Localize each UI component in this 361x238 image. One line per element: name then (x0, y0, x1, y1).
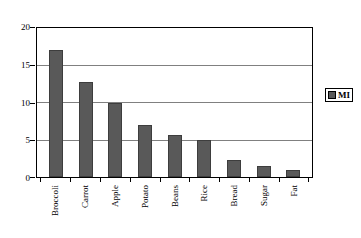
y-tick-label-20: 20 (21, 23, 30, 32)
y-axis: 20 15 10 5 0 (0, 27, 30, 178)
x-label-cell-potato: Potato (130, 183, 160, 238)
bar-carrot (79, 82, 93, 177)
x-label-cell-carrot: Carrot (70, 183, 100, 238)
y-tick-mark-10 (30, 103, 35, 104)
y-tick-label-10: 10 (21, 98, 30, 107)
x-label-cell-sugar: Sugar (249, 183, 279, 238)
y-tick-mark-0 (30, 177, 35, 178)
bar-potato (138, 125, 152, 177)
x-axis-labels: Broccoli Carrot Apple Potato Beans Rice … (36, 183, 313, 238)
x-label-beans: Beans (170, 185, 179, 207)
bar-slot-carrot (71, 28, 101, 177)
bar-slot-apple (100, 28, 130, 177)
bar-slot-potato (130, 28, 160, 177)
x-label-cell-beans: Beans (160, 183, 190, 238)
bar-slot-fat (278, 28, 308, 177)
y-tick-label-0: 0 (26, 174, 31, 183)
x-label-fat: Fat (290, 185, 299, 197)
bar-bread (227, 160, 241, 177)
legend-swatch-icon (328, 91, 336, 99)
x-label-cell-fat: Fat (279, 183, 309, 238)
bar-slot-rice (189, 28, 219, 177)
bar-beans (168, 135, 182, 177)
x-label-cell-bread: Bread (219, 183, 249, 238)
x-label-apple: Apple (110, 185, 119, 207)
x-label-bread: Bread (230, 185, 239, 207)
bar-series-MI (37, 28, 312, 177)
x-label-broccoli: Broccoli (50, 185, 59, 216)
y-tick-mark-20 (30, 27, 35, 28)
bar-chart: 20 15 10 5 0 (0, 0, 361, 238)
x-label-cell-broccoli: Broccoli (40, 183, 70, 238)
legend-label-MI: MI (338, 91, 350, 100)
plot-area (36, 27, 313, 178)
x-label-sugar: Sugar (260, 185, 269, 206)
x-label-cell-rice: Rice (189, 183, 219, 238)
bar-slot-sugar (249, 28, 279, 177)
x-label-cell-apple: Apple (100, 183, 130, 238)
y-tick-label-15: 15 (21, 60, 30, 69)
chart-legend[interactable]: MI (325, 88, 353, 102)
bar-slot-bread (219, 28, 249, 177)
x-label-potato: Potato (140, 185, 149, 208)
bar-slot-broccoli (41, 28, 71, 177)
bar-broccoli (49, 50, 63, 177)
bar-fat (286, 170, 300, 177)
bar-rice (197, 140, 211, 177)
bar-apple (108, 103, 122, 177)
bar-sugar (257, 166, 271, 177)
bar-slot-beans (160, 28, 190, 177)
y-tick-mark-5 (30, 140, 35, 141)
x-label-rice: Rice (200, 185, 209, 202)
x-label-carrot: Carrot (80, 185, 89, 208)
y-tick-mark-15 (30, 65, 35, 66)
